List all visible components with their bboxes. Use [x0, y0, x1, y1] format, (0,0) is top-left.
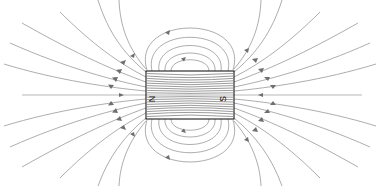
field-line-ur-5 — [234, 43, 370, 87]
north-pole-label: N — [147, 96, 157, 103]
field-arrow-icon — [252, 127, 258, 132]
field-lines-upper-left — [4, 0, 146, 91]
field-line-ll-4 — [22, 108, 146, 167]
field-arrow-icon — [165, 30, 170, 35]
field-arrow-icon — [120, 60, 126, 65]
axis-arrow-left-icon — [119, 93, 124, 97]
field-arrow-icon — [120, 125, 126, 130]
field-line-ul-1 — [119, 0, 146, 69]
field-arrow-icon — [252, 58, 258, 63]
field-line-lr-5 — [234, 103, 370, 147]
field-line-ur-4 — [234, 23, 358, 82]
field-lines-lower-right — [234, 99, 376, 186]
field-loops-below — [145, 119, 234, 162]
field-line-ul-5 — [10, 43, 146, 87]
field-loop-below-4 — [151, 119, 228, 153]
field-line-lr-4 — [234, 108, 358, 167]
field-loop-above-1 — [171, 60, 209, 71]
field-arrow-icon — [116, 116, 122, 121]
field-line-ll-5 — [10, 103, 146, 147]
field-loop-below-3 — [159, 119, 221, 145]
field-loop-above-2 — [165, 53, 215, 71]
field-loop-above-3 — [159, 46, 221, 72]
field-loop-below-1 — [171, 119, 209, 130]
field-line-ul-4 — [22, 23, 146, 82]
field-lines-lower-left — [4, 99, 146, 186]
field-loop-below-5 — [145, 120, 234, 162]
field-arrow-icon — [165, 155, 170, 160]
field-arrow-icon — [244, 48, 249, 53]
field-arrow-icon — [130, 132, 135, 137]
field-lines-upper-right — [234, 0, 376, 91]
field-arrow-icon — [116, 69, 122, 74]
magnet-rectangle — [146, 71, 234, 119]
field-line-canvas: N S — [0, 0, 383, 186]
field-line-lr-2 — [234, 118, 282, 186]
field-loop-above-5 — [145, 28, 234, 70]
field-line-ul-2 — [98, 0, 146, 72]
field-loop-below-2 — [165, 119, 215, 137]
south-pole-label: S — [218, 96, 228, 102]
axis-arrow-right-icon — [258, 93, 263, 97]
field-loop-above-4 — [151, 37, 228, 71]
field-line-ur-2 — [234, 0, 282, 72]
magnetic-field-diagram: N S — [0, 0, 383, 186]
field-loops-above — [145, 28, 234, 71]
